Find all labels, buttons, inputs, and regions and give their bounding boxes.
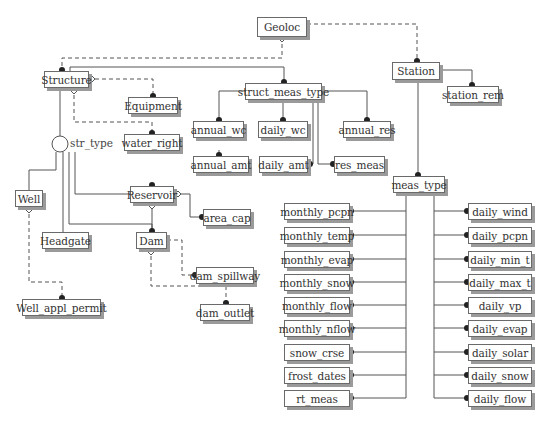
entity-monthly-nflow: monthly_nflow — [284, 320, 350, 337]
entity-meas-type: meas_type — [393, 176, 445, 193]
entity-struct-meas-type: struct_meas_type — [245, 83, 322, 100]
entity-daily-min-t: daily_min_t — [468, 251, 532, 268]
entity-daily-snow: daily_snow — [468, 367, 532, 384]
entity-frost-dates: frost_dates — [284, 367, 350, 384]
entity-monthly-pcpn: monthly_pcpn — [284, 203, 350, 220]
entity-headgate: Headgate — [42, 232, 89, 249]
entity-daily-flow: daily_flow — [468, 390, 532, 407]
entity-daily-evap: daily_evap — [468, 320, 532, 337]
entity-annual-amt: annual_amt — [193, 156, 249, 173]
subtype-circle — [52, 136, 68, 152]
entity-daily-solar: daily_solar — [468, 344, 532, 361]
entity-structure: Structure — [44, 71, 89, 88]
str-type-label: str_type — [70, 137, 113, 149]
entity-res-meas: res_meas — [334, 156, 385, 173]
entity-snow-crse: snow_crse — [284, 344, 350, 361]
entity-monthly-evap: monthly_evap — [284, 251, 350, 268]
entity-daily-pcpn: daily_pcpn — [468, 227, 532, 244]
entity-daily-amt: daily_amt — [259, 156, 308, 173]
entity-annual-res: annual_res — [343, 121, 391, 138]
entity-water-right: water_right — [124, 134, 180, 151]
entity-daily-wc: daily_wc — [258, 121, 308, 138]
entity-annual-wc: annual_wc — [193, 121, 244, 138]
entity-reservoir: Reservoir — [130, 186, 174, 203]
entity-station-rem: station_rem — [447, 86, 499, 103]
entity-monthly-temp: monthly_temp — [284, 227, 350, 244]
entity-monthly-flow: monthly_flow — [284, 297, 350, 314]
entity-dam-spillway: dam_spillway — [196, 267, 254, 284]
entity-equipment: Equipment — [128, 97, 178, 114]
entity-daily-max-t: daily_max_t — [468, 274, 532, 291]
entity-well: Well — [15, 190, 43, 207]
entity-monthly-snow: monthly_snow — [284, 274, 350, 291]
entity-daily-vp: daily_vp — [468, 297, 532, 314]
er-diagram: Geoloc Station station_rem Structure Equ… — [0, 0, 552, 424]
entity-dam-outlet: dam_outlet — [200, 304, 250, 321]
entity-dam: Dam — [136, 232, 167, 249]
entity-area-cap: area_cap — [203, 209, 251, 226]
entity-station: Station — [392, 62, 440, 80]
entity-well-appl-permit: Well_appl_permit — [22, 299, 101, 316]
entity-daily-wind: daily_wind — [468, 203, 532, 220]
entity-geoloc: Geoloc — [257, 17, 307, 37]
entity-rt-meas: rt_meas — [284, 390, 350, 407]
